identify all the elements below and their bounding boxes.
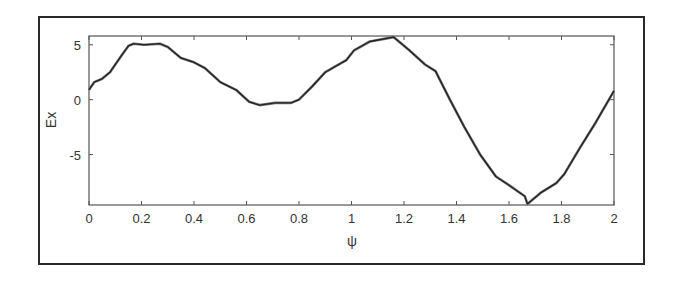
plot-area: 00.20.40.60.811.21.41.61.8250-5 xyxy=(69,36,617,226)
y-tick-label: 5 xyxy=(74,38,81,53)
y-axis-label: Ex xyxy=(43,112,59,128)
x-tick-label: 1.4 xyxy=(447,211,465,226)
data-line xyxy=(89,37,614,204)
x-tick-label: 1.8 xyxy=(552,211,570,226)
x-tick-label: 1.2 xyxy=(395,211,413,226)
line-chart: 00.20.40.60.811.21.41.61.8250-5 ψ Ex xyxy=(0,0,674,287)
x-axis-label: ψ xyxy=(347,233,357,249)
x-tick-label: 1.6 xyxy=(500,211,518,226)
axes-box xyxy=(89,36,614,205)
y-tick-label: -5 xyxy=(69,148,81,163)
x-tick-label: 1 xyxy=(348,211,355,226)
y-tick-label: 0 xyxy=(74,93,81,108)
x-tick-label: 0.8 xyxy=(290,211,308,226)
x-tick-label: 0 xyxy=(85,211,92,226)
x-tick-label: 0.2 xyxy=(132,211,150,226)
data-line-shadow xyxy=(89,37,614,204)
x-tick-label: 0.6 xyxy=(237,211,255,226)
x-tick-label: 2 xyxy=(610,211,617,226)
x-tick-label: 0.4 xyxy=(185,211,203,226)
